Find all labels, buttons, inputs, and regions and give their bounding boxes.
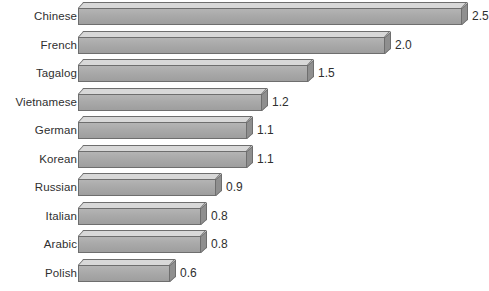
bar-side-face bbox=[201, 231, 207, 253]
bar-row: Vietnamese1.2 bbox=[0, 88, 489, 116]
bar bbox=[78, 94, 262, 111]
bar-side-face bbox=[170, 259, 176, 281]
category-label: Vietnamese bbox=[3, 88, 77, 116]
bar-side-face bbox=[308, 60, 314, 82]
bar-front-face bbox=[78, 94, 262, 111]
category-label: Polish bbox=[3, 259, 77, 287]
bar bbox=[78, 265, 170, 282]
bar-side-face bbox=[247, 117, 253, 139]
category-label: Tagalog bbox=[3, 59, 77, 87]
bar-front-face bbox=[78, 65, 308, 82]
bar bbox=[78, 65, 308, 82]
bar-side-face bbox=[247, 145, 253, 167]
bar-front-face bbox=[78, 236, 201, 253]
category-label: Italian bbox=[3, 202, 77, 230]
value-label: 0.8 bbox=[211, 230, 228, 258]
bar bbox=[78, 8, 462, 25]
bar-front-face bbox=[78, 265, 170, 282]
bar-row: Arabic0.8 bbox=[0, 230, 489, 258]
bar-side-face bbox=[462, 3, 468, 25]
bar-row: French2.0 bbox=[0, 31, 489, 59]
category-label: Russian bbox=[3, 173, 77, 201]
bar-chart: Chinese2.5French2.0Tagalog1.5Vietnamese1… bbox=[0, 0, 489, 291]
bar-front-face bbox=[78, 208, 201, 225]
bar bbox=[78, 236, 201, 253]
value-label: 1.1 bbox=[257, 145, 274, 173]
value-label: 0.9 bbox=[226, 173, 243, 201]
bar bbox=[78, 122, 247, 139]
bar-row: Polish0.6 bbox=[0, 259, 489, 287]
value-label: 1.1 bbox=[257, 116, 274, 144]
bar-side-face bbox=[201, 202, 207, 224]
value-label: 2.5 bbox=[472, 2, 489, 30]
bar-front-face bbox=[78, 37, 385, 54]
bar bbox=[78, 37, 385, 54]
value-label: 0.6 bbox=[180, 259, 197, 287]
category-label: French bbox=[3, 31, 77, 59]
bar bbox=[78, 179, 216, 196]
category-label: Arabic bbox=[3, 230, 77, 258]
bar-front-face bbox=[78, 122, 247, 139]
category-label: Chinese bbox=[3, 2, 77, 30]
bar-row: Chinese2.5 bbox=[0, 2, 489, 30]
bar-front-face bbox=[78, 151, 247, 168]
bar-side-face bbox=[385, 31, 391, 53]
bar-front-face bbox=[78, 179, 216, 196]
value-label: 1.2 bbox=[272, 88, 289, 116]
value-label: 1.5 bbox=[318, 59, 335, 87]
bar-row: Italian0.8 bbox=[0, 202, 489, 230]
bar bbox=[78, 208, 201, 225]
category-label: Korean bbox=[3, 145, 77, 173]
bar-row: German1.1 bbox=[0, 116, 489, 144]
bar bbox=[78, 151, 247, 168]
bar-side-face bbox=[216, 174, 222, 196]
bar-row: Korean1.1 bbox=[0, 145, 489, 173]
plot-area: Chinese2.5French2.0Tagalog1.5Vietnamese1… bbox=[0, 0, 489, 291]
bar-row: Russian0.9 bbox=[0, 173, 489, 201]
bar-side-face bbox=[262, 88, 268, 110]
bar-front-face bbox=[78, 8, 462, 25]
bar-row: Tagalog1.5 bbox=[0, 59, 489, 87]
category-label: German bbox=[3, 116, 77, 144]
value-label: 0.8 bbox=[211, 202, 228, 230]
value-label: 2.0 bbox=[395, 31, 412, 59]
